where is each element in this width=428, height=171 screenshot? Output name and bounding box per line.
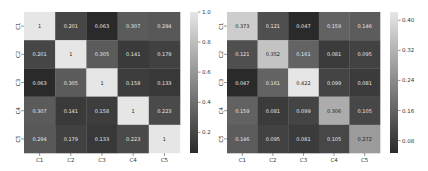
x-tick-label: C3 [300, 157, 308, 163]
cell-label: 0.099 [296, 108, 310, 114]
cell-label: 0.294 [157, 23, 171, 29]
cell-label: 0.047 [296, 23, 310, 29]
colorbar-tick-label: 0.08 [402, 138, 415, 144]
cell-label: 0.305 [95, 51, 109, 57]
y-tick-label: C3 [15, 78, 21, 86]
cell-label: 0.159 [235, 108, 249, 114]
x-tick-label: C4 [130, 157, 138, 163]
cell-label: 0.081 [266, 108, 280, 114]
colorbar-tick-label: 1.0 [202, 9, 211, 15]
colorbar-tick-label: 0.4 [202, 99, 211, 105]
cell-label: 1 [163, 136, 166, 142]
cell-label: 1 [100, 80, 103, 86]
cell-label: 0.306 [327, 108, 341, 114]
heatmap-left: 10.2010.0630.3070.2940.20110.3050.1410.1… [15, 9, 211, 163]
cell-label: 1 [132, 108, 135, 114]
cell-label: 0.099 [327, 80, 341, 86]
cell-label: 0.373 [235, 23, 249, 29]
cell-label: 0.352 [266, 51, 280, 57]
cell-label: 0.272 [358, 136, 372, 142]
colorbar [190, 12, 198, 153]
cell-label: 0.047 [235, 80, 249, 86]
cell-label: 0.179 [157, 51, 171, 57]
cell-label: 0.223 [126, 136, 140, 142]
cell-label: 0.201 [32, 51, 46, 57]
cell-label: 0.146 [358, 23, 372, 29]
cell-label: 0.307 [126, 23, 140, 29]
y-tick-label: C1 [218, 22, 224, 29]
cell-label: 0.201 [64, 23, 78, 29]
x-tick-label: C1 [36, 157, 43, 163]
y-tick-label: C3 [218, 78, 224, 86]
x-tick-label: C4 [330, 157, 338, 163]
cell-label: 0.105 [327, 136, 341, 142]
cell-label: 0.146 [235, 136, 249, 142]
colorbar-tick-label: 0.32 [402, 47, 414, 53]
cell-label: 0.133 [157, 80, 171, 86]
x-tick-label: C1 [239, 157, 246, 163]
cell-label: 0.422 [296, 80, 310, 86]
cell-label: 1 [38, 23, 41, 29]
y-tick-label: C4 [15, 107, 21, 115]
cell-label: 0.158 [126, 80, 140, 86]
colorbar-tick-label: 0.16 [402, 108, 415, 114]
cell-label: 0.133 [95, 136, 109, 142]
y-tick-label: C4 [218, 107, 224, 115]
heatmap-right: 0.3730.1210.0470.1590.1460.1210.3520.161… [218, 12, 415, 163]
cell-label: 0.081 [358, 80, 372, 86]
colorbar-tick-label: 0.8 [202, 39, 211, 45]
cell-label: 0.095 [266, 136, 280, 142]
x-tick-label: C3 [98, 157, 106, 163]
cell-label: 0.121 [235, 51, 249, 57]
cell-label: 0.305 [64, 80, 78, 86]
y-tick-label: C1 [15, 22, 21, 29]
cell-label: 1 [69, 51, 72, 57]
cell-label: 0.307 [32, 108, 46, 114]
colorbar-tick-label: 0.2 [202, 129, 211, 135]
cell-label: 0.161 [266, 80, 280, 86]
colorbar [390, 12, 398, 153]
colorbar-tick-label: 0.24 [402, 77, 415, 83]
colorbar-tick-label: 0.40 [402, 17, 415, 23]
cell-label: 0.063 [32, 80, 46, 86]
y-tick-label: C2 [218, 51, 224, 58]
cell-label: 0.223 [157, 108, 171, 114]
cell-label: 0.179 [64, 136, 78, 142]
cell-label: 0.095 [358, 51, 372, 57]
y-tick-label: C5 [15, 135, 21, 143]
cell-label: 0.161 [296, 51, 310, 57]
cell-label: 0.081 [296, 136, 310, 142]
cell-label: 0.141 [64, 108, 78, 114]
cell-label: 0.141 [126, 51, 140, 57]
colorbar-tick-label: 0.6 [202, 69, 211, 75]
cell-label: 0.105 [358, 108, 372, 114]
x-tick-label: C2 [67, 157, 74, 163]
y-tick-label: C5 [218, 135, 224, 143]
cell-label: 0.121 [266, 23, 280, 29]
x-tick-label: C2 [269, 157, 276, 163]
cell-label: 0.081 [327, 51, 341, 57]
cell-label: 0.294 [32, 136, 46, 142]
y-tick-label: C2 [15, 51, 21, 58]
cell-label: 0.063 [95, 23, 109, 29]
x-tick-label: C5 [361, 157, 369, 163]
x-tick-label: C5 [161, 157, 169, 163]
heatmap-figure: 10.2010.0630.3070.2940.20110.3050.1410.1… [0, 0, 428, 171]
cell-label: 0.159 [327, 23, 341, 29]
cell-label: 0.158 [95, 108, 109, 114]
